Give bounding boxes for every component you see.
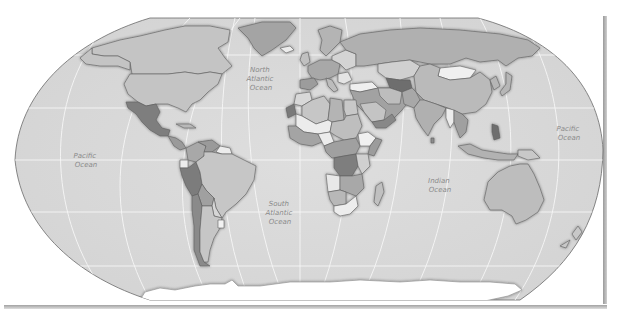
- country-sri-lanka: [431, 138, 434, 143]
- world-map: North Atlantic Ocean Pacific Ocean South…: [0, 0, 630, 324]
- label-indian: Indian Ocean: [428, 177, 452, 194]
- country-ecuador: [180, 160, 188, 168]
- map-page: North Atlantic Ocean Pacific Ocean South…: [0, 0, 630, 324]
- country-egypt: [344, 100, 358, 116]
- country-angola: [326, 174, 340, 192]
- label-south-atlantic: South Atlantic Ocean: [265, 200, 295, 226]
- label-pacific-west: Pacific Ocean: [74, 152, 99, 169]
- country-uruguay: [218, 220, 224, 228]
- label-pacific-east: Pacific Ocean: [557, 125, 582, 142]
- country-libya: [328, 98, 344, 122]
- label-north-atlantic: North Atlantic Ocean: [246, 66, 276, 92]
